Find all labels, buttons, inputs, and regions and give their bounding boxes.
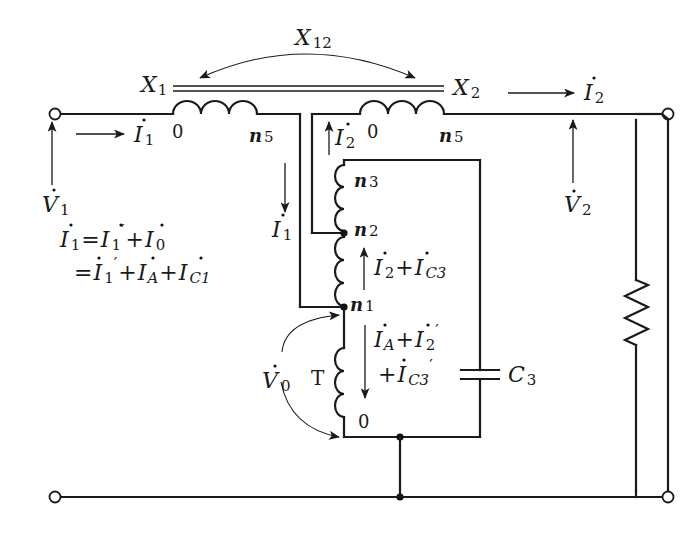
terminal-output-bottom <box>663 492 674 503</box>
capacitor-c3 <box>461 370 499 379</box>
label-i2-plus-ic3: I2+IC3 <box>373 255 446 282</box>
label-secondary-n5: n5 <box>439 125 464 146</box>
label-tap-0: 0 <box>358 411 369 432</box>
label-x12: X12 <box>293 25 332 52</box>
label-v2: V2 <box>564 192 591 219</box>
secondary-winding <box>360 101 444 114</box>
label-primary-0: 0 <box>172 121 183 142</box>
label-x2: X2 <box>451 75 480 102</box>
label-plus-ic3p: +IC3′ <box>378 356 433 389</box>
label-c3: C3 <box>508 362 536 389</box>
terminal-input-bottom <box>50 492 61 503</box>
label-i1-branch: I1 <box>271 217 292 244</box>
label-n1: n1 <box>350 294 375 315</box>
return-wire <box>61 437 662 497</box>
junction-n1 <box>340 303 347 310</box>
label-v1: V1 <box>42 192 69 219</box>
label-ia-plus-i2p: IA+I2′ <box>373 321 439 354</box>
secondary-circuit <box>312 101 662 233</box>
label-secondary-0: 0 <box>367 121 378 142</box>
junction-n2 <box>340 229 347 236</box>
circuit-diagram: X12 X1 X2 0 n5 0 n5 I1 V1 I1 I2 I2 V2 <box>0 0 680 543</box>
label-n3: n3 <box>354 170 379 191</box>
terminal-input-top <box>50 109 61 120</box>
primary-winding <box>173 101 257 114</box>
label-primary-n5: n5 <box>249 125 274 146</box>
label-x1: X1 <box>139 72 167 99</box>
transformer-core <box>173 86 444 91</box>
equation-line-2: =I1′+IA+IC1 <box>74 254 210 287</box>
label-core-t: T <box>311 366 325 390</box>
label-i2-tap: I2 <box>334 125 355 152</box>
label-i2-output: I2 <box>583 80 604 107</box>
equation-line-1: I1=I1′+I0 <box>59 221 165 254</box>
label-v0: V0 <box>262 368 290 395</box>
load-resistor <box>625 120 648 491</box>
label-n2: n2 <box>354 219 379 240</box>
label-i1-input: I1 <box>133 122 154 149</box>
mutual-reactance-arc <box>200 54 415 78</box>
v0-upper-arc-icon <box>282 315 339 352</box>
